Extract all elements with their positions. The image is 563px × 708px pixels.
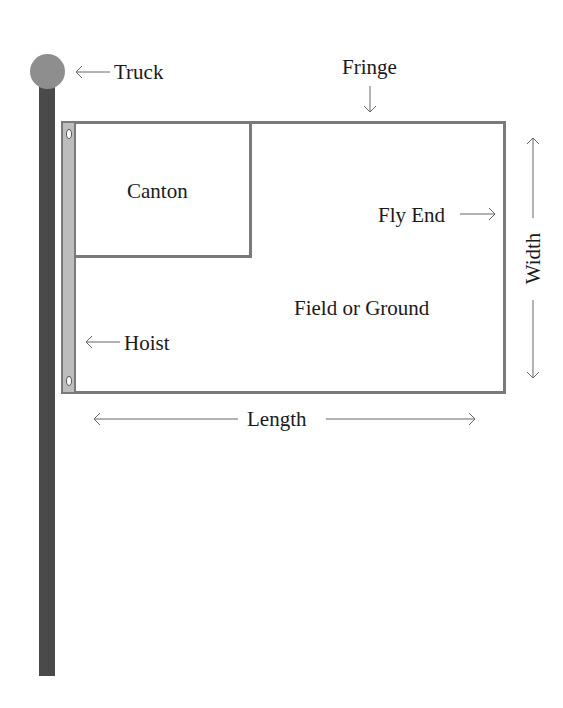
canton-label: Canton: [127, 181, 188, 202]
arrows-layer: [0, 0, 563, 708]
truck-arrow-icon: [76, 66, 110, 78]
width-label: Width: [523, 227, 544, 291]
fly-end-arrow-icon: [460, 208, 495, 220]
field-label: Field or Ground: [294, 298, 429, 319]
hoist-label: Hoist: [124, 333, 170, 354]
hoist-arrow-icon: [86, 336, 120, 348]
truck-label: Truck: [114, 62, 163, 83]
length-label: Length: [247, 409, 306, 430]
fly-end-label: Fly End: [378, 205, 445, 226]
fringe-arrow-icon: [364, 86, 376, 112]
fringe-label: Fringe: [342, 57, 397, 78]
